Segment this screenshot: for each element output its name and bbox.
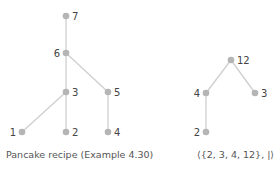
node-label-5: 5 (114, 87, 120, 98)
node-7 (63, 13, 70, 20)
node-label-4: 4 (194, 88, 200, 99)
node-2 (63, 129, 70, 136)
node-label-6: 6 (54, 48, 60, 59)
node-label-4: 4 (114, 127, 120, 138)
pancake-recipe-caption: Pancake recipe (Example 4.30) (6, 149, 153, 160)
node-label-1: 1 (10, 127, 16, 138)
node-3 (63, 89, 70, 96)
node-label-7: 7 (72, 11, 78, 22)
node-2 (203, 129, 210, 136)
divisibility-poset-diagram: 12432 (194, 55, 268, 138)
node-1 (19, 129, 26, 136)
node-6 (63, 50, 70, 57)
node-label-3: 3 (72, 87, 78, 98)
node-label-3: 3 (261, 88, 267, 99)
node-12 (228, 57, 235, 64)
node-4 (203, 90, 210, 97)
node-5 (105, 89, 112, 96)
pancake-recipe-diagram: 7635124 (10, 11, 121, 138)
node-label-12: 12 (237, 55, 250, 66)
divisibility-poset-caption: ⟨{2, 3, 4, 12}, |⟩ (197, 149, 274, 160)
edge-12-4 (206, 60, 231, 93)
node-label-2: 2 (72, 127, 78, 138)
node-4 (105, 129, 112, 136)
edge-3-1 (22, 92, 66, 132)
node-3 (252, 90, 259, 97)
node-label-2: 2 (194, 127, 200, 138)
